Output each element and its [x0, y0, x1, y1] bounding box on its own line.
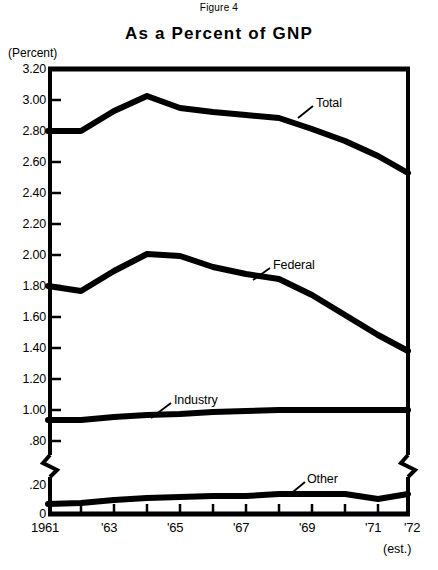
- series-line-total: [48, 96, 408, 173]
- annotation-leader-lines: [151, 106, 313, 496]
- chart-plot-area: [0, 0, 438, 570]
- x-tick-label-71: '71: [365, 520, 381, 535]
- x-tick-label-72: '72: [404, 520, 420, 535]
- chart-frame: [43, 69, 415, 516]
- series-line-other: [48, 494, 408, 504]
- series-label-total: Total: [316, 96, 342, 110]
- estimate-note: (est.): [383, 542, 411, 556]
- series-label-federal: Federal: [273, 258, 315, 272]
- x-tick-label-69: '69: [299, 520, 315, 535]
- series-line-industry: [48, 410, 408, 420]
- series-label-other: Other: [307, 472, 338, 486]
- x-tick-label-65: '65: [167, 520, 183, 535]
- x-tick-label-67: '67: [233, 520, 249, 535]
- leader-line-total: [298, 106, 313, 118]
- x-tick-label-63: '63: [101, 520, 117, 535]
- x-tick-label-1961: 1961: [31, 520, 59, 535]
- figure-container: Figure 4 As a Percent of GNP (Percent) 3…: [0, 0, 438, 570]
- series-line-federal: [48, 254, 408, 351]
- series-label-industry: Industry: [174, 393, 218, 407]
